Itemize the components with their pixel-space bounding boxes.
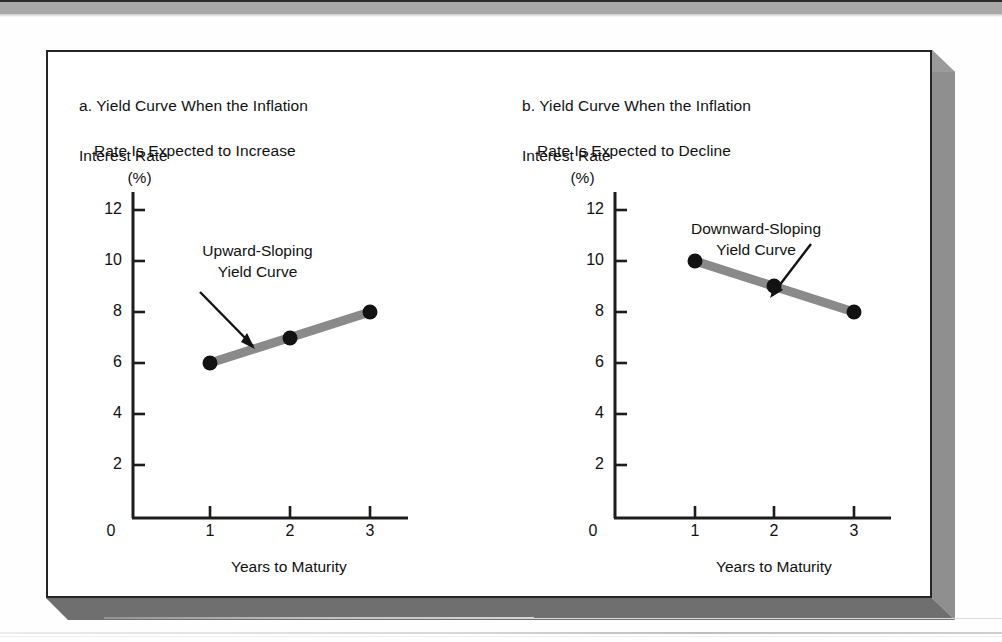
panel-a-x-tick-2: 2 [279,522,301,540]
panel-b-x-axis-title: Years to Maturity [716,558,832,576]
panel-b-y-tick-4: 4 [570,404,604,422]
panel-b: b. Yield Curve When the Inflation Rate I… [491,52,934,600]
panel-a-y-tick-8: 8 [88,302,122,320]
panel-b-y-tick-6: 6 [570,353,604,371]
panel-a-y-tick-6: 6 [88,353,122,371]
panel-b-x-tick-marks [695,506,854,518]
panel-b-point-3 [847,305,862,320]
panel-b-annotation-line1: Downward-Sloping [661,218,851,239]
panel-b-x-tick-3: 3 [843,522,865,540]
panel-b-annotation: Downward-Sloping Yield Curve [661,218,851,261]
panel-a-x-tick-3: 3 [359,522,381,540]
panel-a-point-1 [203,356,218,371]
panel-a-annotation: Upward-Sloping Yield Curve [170,240,345,283]
page-top-gray-band [0,2,1002,14]
panel-a-y-tick-12: 12 [88,200,122,218]
page-bottom-streak-1 [104,617,534,619]
panel-b-x-tick-2: 2 [763,522,785,540]
page-top-band-fade [0,14,1002,17]
page-bottom-streak-4 [0,636,1002,637]
page-bottom-streak-3 [0,632,1002,634]
panel-b-y-tick-12: 12 [570,200,604,218]
panel-b-plot [491,52,934,600]
panel-b-y-tick-marks [615,210,627,465]
panel-b-origin-label: 0 [582,522,604,540]
panel-a-x-tick-marks [210,506,370,518]
panel-a-point-2 [283,331,298,346]
panel-b-y-tick-2: 2 [570,455,604,473]
panel-b-y-tick-10: 10 [570,251,604,269]
panel-a-annotation-line2: Yield Curve [170,261,345,282]
figure-frame: a. Yield Curve When the Inflation Rate I… [46,50,932,598]
panel-a-plot [48,52,491,600]
panel-a: a. Yield Curve When the Inflation Rate I… [48,52,491,600]
panel-a-annotation-line1: Upward-Sloping [170,240,345,261]
panel-b-annotation-line2: Yield Curve [661,239,851,260]
panel-a-origin-label: 0 [100,522,122,540]
panel-b-y-tick-8: 8 [570,302,604,320]
panel-b-x-tick-1: 1 [684,522,706,540]
panel-a-y-tick-marks [133,210,145,465]
panel-a-y-tick-2: 2 [88,455,122,473]
page-bottom-streak-2 [534,618,1002,619]
panel-a-point-3 [363,305,378,320]
panel-a-y-tick-10: 10 [88,251,122,269]
panel-a-annotation-arrow [200,292,255,349]
panel-a-x-axis-title: Years to Maturity [231,558,347,576]
panel-a-x-tick-1: 1 [199,522,221,540]
panel-a-y-tick-4: 4 [88,404,122,422]
